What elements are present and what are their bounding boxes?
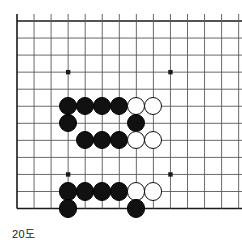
go-board xyxy=(0,0,242,222)
black-stone xyxy=(93,182,111,200)
black-stone xyxy=(59,182,77,200)
black-stone xyxy=(127,199,145,217)
black-stone xyxy=(59,114,77,132)
white-stone xyxy=(127,97,145,115)
black-stone xyxy=(110,131,128,149)
black-stone xyxy=(93,131,111,149)
black-stone xyxy=(110,97,128,115)
black-stone xyxy=(76,182,94,200)
black-stone xyxy=(110,182,128,200)
white-stone xyxy=(144,131,162,149)
white-stone xyxy=(144,182,162,200)
black-stone xyxy=(59,199,77,217)
white-stone xyxy=(144,97,162,115)
white-stone xyxy=(127,131,145,149)
black-stone xyxy=(127,114,145,132)
white-stone xyxy=(127,182,145,200)
black-stone xyxy=(76,131,94,149)
black-stone xyxy=(59,97,77,115)
black-stone xyxy=(76,97,94,115)
go-diagram-figure: 20도 xyxy=(0,0,242,246)
stone-layer xyxy=(0,0,242,222)
figure-caption: 20도 xyxy=(12,227,36,241)
black-stone xyxy=(93,97,111,115)
